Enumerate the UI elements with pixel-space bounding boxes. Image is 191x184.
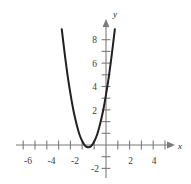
- x-tick-label-4: 4: [152, 156, 157, 166]
- x-tick-label--6: -6: [24, 156, 32, 166]
- y-tick-label-2: 2: [92, 106, 97, 116]
- x-tick-label--2: -2: [71, 156, 79, 166]
- x-tick-label--4: -4: [48, 156, 56, 166]
- y-tick-label-6: 6: [92, 59, 97, 69]
- y-axis-name-label: y: [112, 9, 117, 19]
- plot-canvas: -6 -4 -2 2 4 8 6 4 2 -2 x y: [0, 0, 191, 184]
- x-axis-arrow-icon: [167, 142, 175, 149]
- graph-figure: -6 -4 -2 2 4 8 6 4 2 -2 x y: [0, 0, 191, 184]
- y-tick-label-4: 4: [92, 82, 97, 92]
- y-tick-label-8: 8: [92, 35, 97, 45]
- y-tick-label--2: -2: [91, 164, 99, 174]
- parabola-curve: [62, 29, 115, 147]
- x-tick-label-2: 2: [128, 156, 133, 166]
- y-axis-arrow-icon: [103, 19, 110, 27]
- x-axis-name-label: x: [177, 141, 182, 151]
